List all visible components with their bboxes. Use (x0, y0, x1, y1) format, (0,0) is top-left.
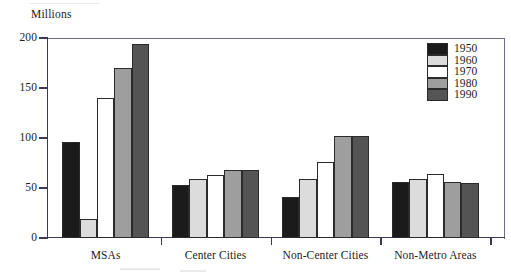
bar (409, 179, 426, 238)
bar (80, 219, 97, 238)
x-axis-tick (161, 238, 162, 245)
bar (97, 98, 114, 238)
y-axis-tick-label: 150 (19, 81, 37, 93)
legend-item: 1950 (427, 43, 477, 55)
legend-swatch (427, 55, 448, 67)
x-axis-category-label: Center Cities (156, 249, 276, 261)
bar (427, 174, 444, 238)
legend-label: 1990 (454, 89, 477, 101)
bar (207, 175, 224, 238)
bar (299, 179, 316, 238)
y-axis-tick-label: 50 (25, 181, 37, 193)
bar (444, 182, 461, 238)
bar (392, 182, 409, 238)
bar (189, 179, 206, 238)
bar (242, 170, 259, 238)
x-axis-tick (271, 238, 272, 245)
legend-item: 1990 (427, 89, 477, 101)
scan-artifact (180, 270, 206, 272)
y-axis-unit-label: Millions (31, 8, 72, 20)
x-axis-category-label: Non-Center Cities (265, 249, 385, 261)
bar (282, 197, 299, 238)
bar (224, 170, 241, 238)
scan-artifact (30, 3, 100, 4)
bar (352, 136, 369, 238)
y-axis-tick-label: 200 (19, 31, 37, 43)
legend-label: 1950 (454, 43, 477, 55)
y-axis-tick-label: 100 (19, 131, 37, 143)
bar-group (62, 38, 149, 238)
bar (461, 183, 478, 238)
legend-swatch (427, 78, 448, 90)
y-axis-tick (39, 237, 48, 238)
x-axis-category-label: Non-Metro Areas (375, 249, 495, 261)
bar (62, 142, 79, 238)
bar (172, 185, 189, 238)
bar (317, 162, 334, 238)
x-axis-category-label: MSAs (46, 249, 166, 261)
y-axis-tick (39, 187, 48, 188)
bar-group (282, 38, 369, 238)
legend: 19501960197019801990 (427, 43, 477, 101)
bar (334, 136, 351, 238)
x-axis-tick (490, 238, 491, 245)
scan-artifact (120, 268, 160, 270)
bar-group (172, 38, 259, 238)
bar (132, 44, 149, 238)
y-axis-tick (39, 37, 48, 38)
legend-swatch (427, 66, 448, 78)
y-axis-tick-label: 0 (31, 231, 37, 243)
legend-swatch (427, 89, 448, 101)
x-axis-tick (380, 238, 381, 245)
y-axis-tick (39, 137, 48, 138)
y-axis-tick (39, 87, 48, 88)
bar-chart: Millions 050100150200 MSAsCenter CitiesN… (0, 0, 511, 274)
legend-swatch (427, 43, 448, 55)
bar (114, 68, 131, 238)
